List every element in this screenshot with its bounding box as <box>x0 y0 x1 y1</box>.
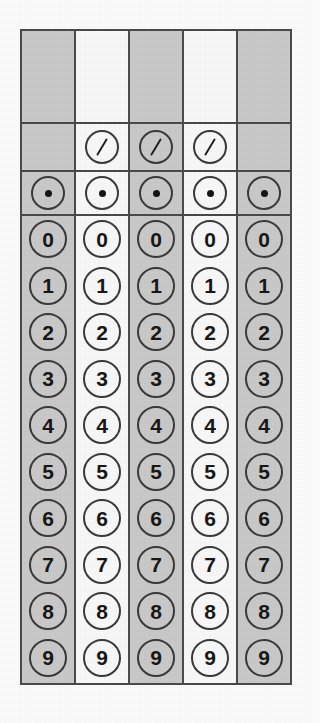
digit-bubble-4-2[interactable]: 2 <box>191 313 229 351</box>
digit-bubble-3-7[interactable]: 7 <box>137 546 175 584</box>
digit-bubble-4-3[interactable]: 3 <box>191 360 229 398</box>
digit-bubble-4-7[interactable]: 7 <box>191 546 229 584</box>
digit-cell-1-4[interactable]: 4 <box>22 402 74 449</box>
digit-bubble-3-0[interactable]: 0 <box>137 220 175 258</box>
digit-bubble-3-4[interactable]: 4 <box>137 406 175 444</box>
digit-cell-3-7[interactable]: 7 <box>130 542 182 589</box>
digit-cell-2-4[interactable]: 4 <box>76 402 128 449</box>
digit-bubble-3-2[interactable]: 2 <box>137 313 175 351</box>
digit-cell-4-5[interactable]: 5 <box>184 449 236 496</box>
digit-cell-1-5[interactable]: 5 <box>22 449 74 496</box>
digit-bubble-5-2[interactable]: 2 <box>245 313 283 351</box>
digit-cell-4-7[interactable]: 7 <box>184 542 236 589</box>
digit-bubble-2-5[interactable]: 5 <box>83 453 121 491</box>
digit-cell-3-4[interactable]: 4 <box>130 402 182 449</box>
fraction-bar-cell-4[interactable] <box>184 124 236 172</box>
digit-bubble-3-1[interactable]: 1 <box>137 267 175 305</box>
digit-cell-5-2[interactable]: 2 <box>238 309 290 356</box>
digit-cell-1-6[interactable]: 6 <box>22 495 74 542</box>
digit-cell-2-5[interactable]: 5 <box>76 449 128 496</box>
digit-cell-2-7[interactable]: 7 <box>76 542 128 589</box>
digit-bubble-3-6[interactable]: 6 <box>137 499 175 537</box>
digit-cell-5-5[interactable]: 5 <box>238 449 290 496</box>
digit-bubble-4-6[interactable]: 6 <box>191 499 229 537</box>
digit-cell-4-2[interactable]: 2 <box>184 309 236 356</box>
digit-bubble-4-8[interactable]: 8 <box>191 592 229 630</box>
digit-bubble-1-9[interactable]: 9 <box>29 639 67 677</box>
digit-cell-4-9[interactable]: 9 <box>184 635 236 682</box>
digit-bubble-1-3[interactable]: 3 <box>29 360 67 398</box>
decimal-point-bubble-3[interactable] <box>139 176 173 210</box>
decimal-point-bubble-1[interactable] <box>31 176 65 210</box>
digit-bubble-2-7[interactable]: 7 <box>83 546 121 584</box>
digit-bubble-5-8[interactable]: 8 <box>245 592 283 630</box>
digit-bubble-3-3[interactable]: 3 <box>137 360 175 398</box>
digit-cell-1-9[interactable]: 9 <box>22 635 74 682</box>
write-in-box-3[interactable] <box>130 31 182 124</box>
digit-cell-1-0[interactable]: 0 <box>22 216 74 263</box>
digit-cell-1-3[interactable]: 3 <box>22 356 74 403</box>
digit-bubble-1-8[interactable]: 8 <box>29 592 67 630</box>
digit-cell-3-1[interactable]: 1 <box>130 263 182 310</box>
digit-bubble-3-8[interactable]: 8 <box>137 592 175 630</box>
write-in-box-5[interactable] <box>238 31 290 124</box>
fraction-bar-cell-2[interactable] <box>76 124 128 172</box>
digit-bubble-4-1[interactable]: 1 <box>191 267 229 305</box>
digit-bubble-4-5[interactable]: 5 <box>191 453 229 491</box>
digit-cell-5-3[interactable]: 3 <box>238 356 290 403</box>
digit-cell-3-8[interactable]: 8 <box>130 588 182 635</box>
decimal-point-bubble-4[interactable] <box>193 176 227 210</box>
digit-bubble-5-4[interactable]: 4 <box>245 406 283 444</box>
digit-cell-2-9[interactable]: 9 <box>76 635 128 682</box>
digit-bubble-1-4[interactable]: 4 <box>29 406 67 444</box>
digit-cell-3-5[interactable]: 5 <box>130 449 182 496</box>
digit-bubble-2-1[interactable]: 1 <box>83 267 121 305</box>
decimal-point-cell-5[interactable] <box>238 172 290 216</box>
digit-cell-2-2[interactable]: 2 <box>76 309 128 356</box>
digit-bubble-1-1[interactable]: 1 <box>29 267 67 305</box>
digit-cell-5-1[interactable]: 1 <box>238 263 290 310</box>
digit-cell-5-7[interactable]: 7 <box>238 542 290 589</box>
digit-bubble-5-7[interactable]: 7 <box>245 546 283 584</box>
digit-bubble-5-6[interactable]: 6 <box>245 499 283 537</box>
digit-bubble-1-7[interactable]: 7 <box>29 546 67 584</box>
digit-cell-4-6[interactable]: 6 <box>184 495 236 542</box>
digit-cell-3-2[interactable]: 2 <box>130 309 182 356</box>
write-in-box-1[interactable] <box>22 31 74 124</box>
digit-bubble-5-9[interactable]: 9 <box>245 639 283 677</box>
digit-cell-1-2[interactable]: 2 <box>22 309 74 356</box>
digit-cell-3-9[interactable]: 9 <box>130 635 182 682</box>
digit-bubble-2-3[interactable]: 3 <box>83 360 121 398</box>
digit-bubble-3-5[interactable]: 5 <box>137 453 175 491</box>
digit-cell-2-0[interactable]: 0 <box>76 216 128 263</box>
decimal-point-bubble-5[interactable] <box>247 176 281 210</box>
digit-cell-4-1[interactable]: 1 <box>184 263 236 310</box>
digit-bubble-2-0[interactable]: 0 <box>83 220 121 258</box>
digit-cell-5-6[interactable]: 6 <box>238 495 290 542</box>
fraction-bar-bubble-4[interactable] <box>193 130 227 164</box>
digit-cell-4-4[interactable]: 4 <box>184 402 236 449</box>
fraction-bar-bubble-3[interactable] <box>139 130 173 164</box>
decimal-point-cell-2[interactable] <box>76 172 128 216</box>
write-in-box-2[interactable] <box>76 31 128 124</box>
digit-bubble-1-0[interactable]: 0 <box>29 220 67 258</box>
decimal-point-cell-4[interactable] <box>184 172 236 216</box>
digit-bubble-5-1[interactable]: 1 <box>245 267 283 305</box>
digit-cell-5-9[interactable]: 9 <box>238 635 290 682</box>
decimal-point-cell-3[interactable] <box>130 172 182 216</box>
digit-cell-2-6[interactable]: 6 <box>76 495 128 542</box>
digit-cell-5-8[interactable]: 8 <box>238 588 290 635</box>
digit-bubble-5-0[interactable]: 0 <box>245 220 283 258</box>
digit-bubble-2-9[interactable]: 9 <box>83 639 121 677</box>
digit-bubble-4-9[interactable]: 9 <box>191 639 229 677</box>
digit-cell-2-8[interactable]: 8 <box>76 588 128 635</box>
decimal-point-bubble-2[interactable] <box>85 176 119 210</box>
digit-cell-2-3[interactable]: 3 <box>76 356 128 403</box>
digit-cell-3-0[interactable]: 0 <box>130 216 182 263</box>
digit-cell-3-6[interactable]: 6 <box>130 495 182 542</box>
digit-bubble-2-2[interactable]: 2 <box>83 313 121 351</box>
digit-bubble-5-3[interactable]: 3 <box>245 360 283 398</box>
fraction-bar-bubble-2[interactable] <box>85 130 119 164</box>
digit-bubble-2-6[interactable]: 6 <box>83 499 121 537</box>
decimal-point-cell-1[interactable] <box>22 172 74 216</box>
